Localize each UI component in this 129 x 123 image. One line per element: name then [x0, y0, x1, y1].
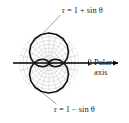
- curve-label-lower: r = 1 − sin θ: [54, 106, 95, 115]
- polar-axis-label-line2: axis: [94, 68, 112, 78]
- polar-axis-label-line1: Polar: [94, 58, 112, 68]
- polar-axis-label: Polar axis: [94, 58, 112, 78]
- curve-label-upper: r = 1 + sin θ: [62, 7, 103, 16]
- axis-tick-label-2: 2: [88, 59, 92, 67]
